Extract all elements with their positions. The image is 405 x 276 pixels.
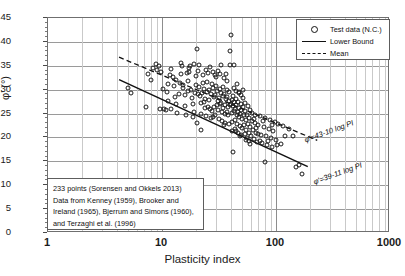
scatter-point [252,117,257,122]
scatter-point [169,66,174,71]
y-axis-tick-label: 10 [0,179,11,189]
x-axis-tick-label: 10 [155,236,167,248]
scatter-point [146,71,151,76]
y-axis-minor-tick [45,46,48,47]
y-axis-tick-mark [43,160,47,161]
y-axis-tick-label: 0 [0,227,11,237]
scatter-point [283,133,288,138]
scatter-point [213,73,218,78]
scatter-point [224,79,229,84]
y-axis-minor-tick [45,156,48,157]
scatter-point [255,131,260,136]
note-line-2: Data from Kenney (1959), Brooker and [53,195,198,207]
scatter-point [194,74,199,79]
scatter-point [180,82,185,87]
y-axis-tick-label: 35 [0,60,11,70]
scatter-point [203,67,208,72]
y-axis-tick-label: 15 [0,155,11,165]
y-axis-tick-mark [43,17,47,18]
y-axis-minor-tick [45,27,48,28]
scatter-point [125,86,130,91]
y-axis-minor-tick [45,60,48,61]
scatter-point [197,62,202,67]
scatter-point [143,104,148,109]
scatter-point [186,79,191,84]
scatter-point [225,109,230,114]
scatter-point [262,160,267,165]
note-line-1: 233 points (Sorensen and Okkels 2013) [53,183,198,195]
scatter-point [196,92,201,97]
y-axis-minor-tick [45,132,48,133]
scatter-point [222,123,227,128]
scatter-point [185,71,190,76]
y-axis-minor-tick [45,93,48,94]
y-axis-tick-mark [43,65,47,66]
scatter-point [290,134,295,139]
scatter-point [223,72,228,77]
y-axis-minor-tick [45,74,48,75]
y-axis-tick-mark [43,41,47,42]
y-axis-minor-tick [45,22,48,23]
y-axis-tick-label: 40 [0,36,11,46]
chart-legend: Test data (N.C.) Lower Bound Mean [296,19,390,60]
scatter-point [173,78,178,83]
y-axis-minor-tick [45,70,48,71]
y-axis-minor-tick [45,170,48,171]
scatter-point [172,83,177,88]
y-axis-minor-tick [45,84,48,85]
scatter-point [261,119,266,124]
scatter-point [227,102,232,107]
scatter-point [286,126,291,131]
y-axis-minor-tick [45,108,48,109]
y-axis-tick-mark [43,113,47,114]
note-line-3: Ireland (1965), Bjerrum and Simons (1960… [53,206,198,218]
scatter-point [176,92,181,97]
y-axis-tick-mark [43,89,47,90]
scatter-point [297,162,302,167]
source-note-box: 233 points (Sorensen and Okkels 2013) Da… [47,178,204,230]
y-axis-tick-mark [43,136,47,137]
scatter-point [253,125,258,130]
x-axis-tick-label: 1 [44,236,50,248]
y-axis-minor-tick [45,141,48,142]
scatter-point [191,109,196,114]
y-axis-minor-tick [45,98,48,99]
scatter-point [238,132,243,137]
y-axis-minor-tick [45,127,48,128]
scatter-point [265,139,270,144]
scatter-point [175,110,180,115]
scatter-point [156,63,161,68]
scatter-point [189,96,194,101]
scatter-point [166,81,171,86]
scatter-point [231,150,236,155]
scatter-point [182,93,187,98]
x-axis-title: Plasticity index [0,253,405,265]
y-axis-title: φ' (°) [0,76,11,100]
scatter-point [216,68,221,73]
legend-item-test-data: Test data (N.C.) [301,23,385,35]
scatter-point [270,123,275,128]
y-axis-minor-tick [45,50,48,51]
scatter-point [178,60,183,65]
legend-item-lower-bound: Lower Bound [301,35,385,47]
y-axis-minor-tick [45,146,48,147]
y-axis-minor-tick [45,122,48,123]
y-axis-minor-tick [45,36,48,37]
scatter-point [209,108,214,113]
scatter-point [195,68,200,73]
y-axis-minor-tick [45,55,48,56]
y-axis-minor-tick [45,31,48,32]
y-axis-tick-label: 20 [0,131,11,141]
legend-item-mean: Mean [301,47,385,59]
y-axis-tick-mark [43,232,47,233]
scatter-point [232,62,237,67]
scatter-point [148,77,153,82]
y-axis-tick-label: 5 [0,203,11,213]
scatter-point [234,81,239,86]
open-circle-icon [301,26,327,33]
scatter-point [186,65,191,70]
scatter-point [158,70,163,75]
scatter-point [194,47,199,52]
scatter-point [280,124,285,129]
scatter-point [219,62,224,67]
